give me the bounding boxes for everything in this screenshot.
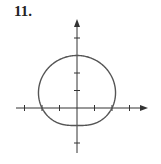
axes [16, 19, 148, 153]
y-axis-arrow-icon [74, 19, 80, 27]
polar-graph [0, 0, 161, 164]
x-axis-arrow-icon [140, 105, 148, 111]
